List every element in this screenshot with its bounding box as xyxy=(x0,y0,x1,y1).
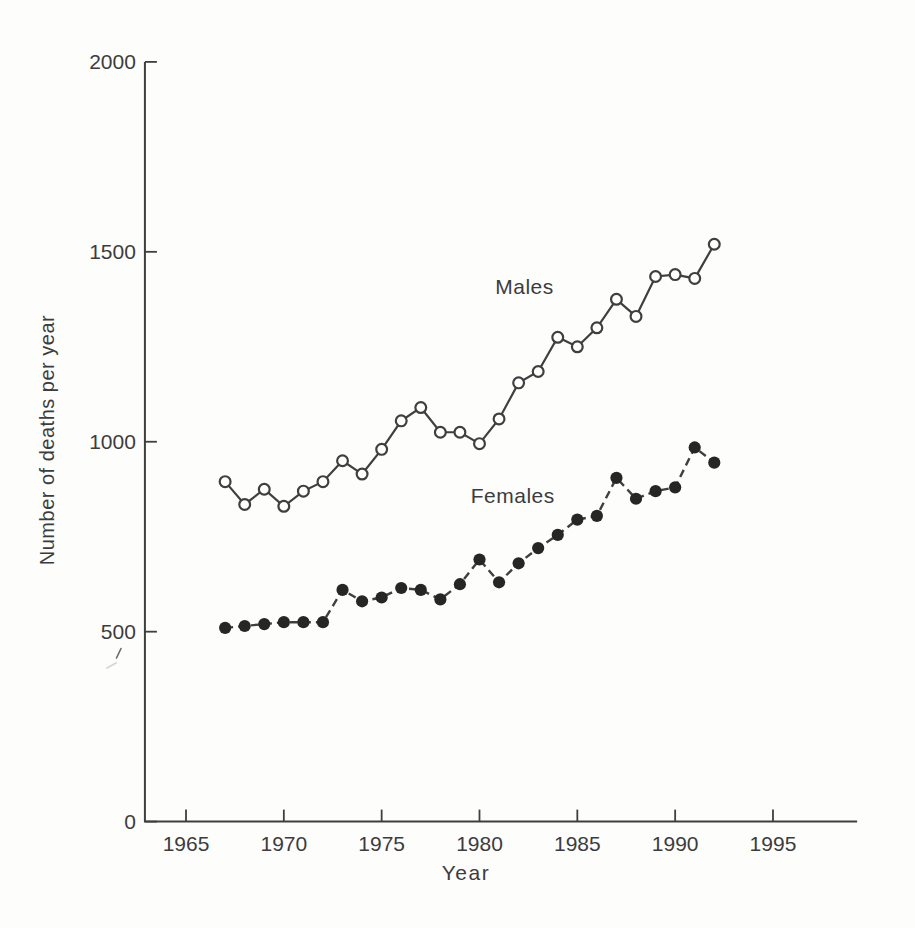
females-data-point xyxy=(395,582,407,594)
males-data-point xyxy=(552,332,563,343)
males-data-point xyxy=(611,294,622,305)
males-data-point xyxy=(689,273,700,284)
y-tick-label: 1500 xyxy=(89,240,136,263)
scanned-figure-page: 0500100015002000196519701975198019851990… xyxy=(0,0,915,928)
females-data-point xyxy=(219,622,231,634)
scan-artifact xyxy=(107,663,116,668)
males-line xyxy=(225,244,714,506)
females-data-point xyxy=(689,441,701,453)
males-data-point xyxy=(415,402,426,413)
males-data-point xyxy=(591,322,602,333)
females-data-point xyxy=(669,481,681,493)
females-data-point xyxy=(513,557,525,569)
males-data-point xyxy=(239,499,250,510)
males-data-point xyxy=(220,476,231,487)
x-tick-label: 1990 xyxy=(652,832,699,855)
females-data-point xyxy=(493,576,505,588)
females-data-point xyxy=(278,616,290,628)
axis-lines xyxy=(145,62,857,822)
males-data-point xyxy=(337,455,348,466)
males-data-point xyxy=(494,414,505,425)
females-data-point xyxy=(532,542,544,554)
males-data-point xyxy=(357,469,368,480)
males-data-point xyxy=(631,311,642,322)
females-data-point xyxy=(571,514,583,526)
males-data-point xyxy=(318,476,329,487)
x-tick-label: 1985 xyxy=(554,832,601,855)
females-line xyxy=(225,447,714,627)
males-data-point xyxy=(396,415,407,426)
x-tick-label: 1965 xyxy=(163,832,210,855)
females-data-point xyxy=(630,493,642,505)
females-data-point xyxy=(258,618,270,630)
males-data-point xyxy=(376,444,387,455)
females-data-point xyxy=(708,457,720,469)
y-axis-title: Number of deaths per year xyxy=(36,315,59,565)
males-data-point xyxy=(435,427,446,438)
scan-artifact xyxy=(117,649,122,659)
males-series-label: Males xyxy=(495,275,554,298)
females-data-point xyxy=(239,620,251,632)
x-tick-label: 1980 xyxy=(456,832,503,855)
males-data-point xyxy=(474,438,485,449)
males-data-point xyxy=(709,239,720,250)
males-data-point xyxy=(533,366,544,377)
males-data-point xyxy=(298,486,309,497)
females-series-label: Females xyxy=(471,484,555,507)
females-data-point xyxy=(473,553,485,565)
females-data-point xyxy=(317,616,329,628)
males-data-point xyxy=(513,377,524,388)
females-data-point xyxy=(415,584,427,596)
y-tick-label: 0 xyxy=(124,810,136,833)
y-tick-label: 500 xyxy=(101,620,136,643)
females-data-point xyxy=(297,616,309,628)
females-data-point xyxy=(649,485,661,497)
males-data-point xyxy=(278,501,289,512)
x-tick-label: 1995 xyxy=(750,832,797,855)
females-data-point xyxy=(591,510,603,522)
females-data-point xyxy=(336,584,348,596)
males-data-point xyxy=(650,271,661,282)
x-tick-label: 1975 xyxy=(358,832,405,855)
females-data-point xyxy=(552,529,564,541)
females-data-point xyxy=(454,578,466,590)
females-data-point xyxy=(610,472,622,484)
chart-canvas: 0500100015002000196519701975198019851990… xyxy=(0,0,915,928)
y-tick-label: 1000 xyxy=(89,430,136,453)
males-data-point xyxy=(455,427,466,438)
females-data-point xyxy=(434,593,446,605)
females-data-point xyxy=(376,591,388,603)
females-data-point xyxy=(356,595,368,607)
y-tick-label: 2000 xyxy=(89,50,136,73)
x-tick-label: 1970 xyxy=(260,832,307,855)
males-data-point xyxy=(572,341,583,352)
x-axis-title: Year xyxy=(442,861,490,885)
males-data-point xyxy=(670,269,681,280)
males-data-point xyxy=(259,484,270,495)
